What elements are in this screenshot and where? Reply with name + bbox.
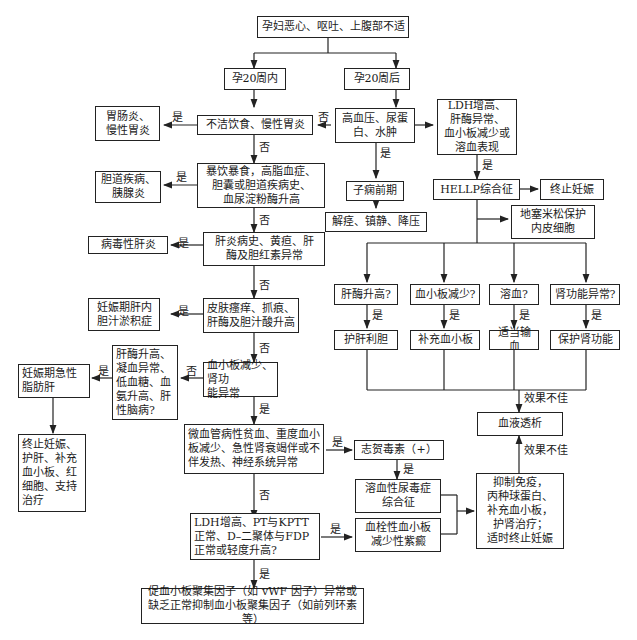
- edge-label-yes: 是: [482, 160, 493, 172]
- edge-label-yes: 是: [259, 404, 270, 416]
- node-mahat: 微血管病性贫血、重度血小 板减少、急性肾衰竭伴或不 伴发热、神经系统异常: [184, 424, 324, 474]
- node-hypertension-proteinuria-edema: 高血压、尿蛋 白、水肿: [335, 108, 415, 143]
- edge-label-yes: 是: [449, 310, 460, 322]
- node-start: 孕妇恶心、呕吐、上腹部不适: [257, 16, 409, 38]
- node-renal-protection: 保护肾功能: [550, 330, 620, 350]
- node-liver-enzyme-question: 肝酶升高?: [334, 284, 398, 305]
- node-ldh-pt-kptt: LDH增高、PT与KPTT 正常、D–二聚体与FDP 正常或轻度升高?: [190, 513, 320, 560]
- edge-label-poor-effect: 效果不佳: [524, 393, 568, 405]
- node-platelet-supplement: 补充血小板: [410, 330, 480, 350]
- node-dexamethasone: 地塞米松保护 内皮细胞: [511, 205, 595, 239]
- node-liver-protection: 护肝利胆: [334, 330, 398, 350]
- node-renal-question: 肾功能异常?: [550, 284, 620, 305]
- node-ldh-elevated: LDH增高、 肝酶异常、 血小板减少或 溶血表现: [437, 99, 517, 155]
- node-afl-criteria: 肝酶升高、 凝血异常、 低血糖、血 氨升高、肝 性脑病?: [112, 345, 178, 420]
- node-preeclampsia-treatment: 解痉、镇静、降压: [325, 212, 427, 232]
- edge-label-yes: 是: [380, 148, 391, 160]
- edge-label-no: 否: [259, 215, 270, 227]
- node-preeclampsia: 子痫前期: [346, 181, 404, 201]
- node-platelet-renal: 血小板减少、肾功 能异常: [203, 362, 278, 397]
- edge-label-yes: 是: [178, 306, 189, 318]
- edge-label-yes: 是: [332, 437, 343, 449]
- node-vwf-factor: 促血小板聚集因子（如 vWF 因子）异常或 缺乏正常抑制血小板聚集因子（如前列环…: [141, 588, 364, 624]
- node-viral-hepatitis: 病毒性肝炎: [88, 236, 168, 254]
- node-shiga-toxin: 志贺毒素（+）: [354, 440, 444, 460]
- node-hemolysis-question: 溶血?: [489, 284, 539, 305]
- node-after-20-weeks: 孕20周后: [344, 68, 410, 90]
- edge-label-yes: 是: [178, 238, 189, 250]
- node-hemodialysis: 血液透析: [477, 412, 563, 436]
- node-acute-fatty-liver: 妊娠期急性 脂肪肝: [18, 364, 90, 398]
- edge-label-poor-effect: 效果不佳: [524, 445, 568, 457]
- node-gastroenteritis: 胃肠炎、 慢性胃炎: [95, 106, 160, 141]
- edge-label-yes: 是: [519, 310, 530, 322]
- edge-label-yes: 是: [372, 310, 383, 322]
- node-unclean-food-chronic-gastritis: 不洁饮食、慢性胃炎: [197, 115, 313, 135]
- node-hepatitis-history: 肝炎病史、黄疸、肝 酶及胆红素异常: [203, 232, 325, 266]
- edge-label-yes: 是: [176, 172, 187, 184]
- node-ttp: 血栓性血小板 减少性紫癜: [355, 518, 441, 552]
- node-within-20-weeks: 孕20周内: [224, 68, 286, 90]
- node-biliary-disease: 胆道疾病、 胰腺炎: [95, 171, 161, 203]
- node-binge-eating-hyperlipidemia: 暴饮暴食，高脂血症、 胆囊或胆道疾病史、 血尿淀粉酶升高: [197, 163, 325, 208]
- edge-label-yes: 是: [98, 366, 109, 378]
- edge-label-no: 否: [259, 490, 270, 502]
- edge-label-no: 否: [259, 343, 270, 355]
- edge-label-yes: 是: [403, 464, 414, 476]
- node-hus: 溶血性尿毒症 综合征: [355, 479, 441, 513]
- node-transfusion: 适当输血: [489, 330, 539, 350]
- edge-label-yes: 是: [172, 112, 183, 124]
- node-hellp-syndrome: HELLP综合征: [433, 179, 520, 200]
- node-terminate-pregnancy: 终止妊娠: [540, 179, 604, 200]
- node-immune-suppression-treatment: 抑制免疫， 丙种球蛋白、 补充血小板， 护肾治疗； 适时终止妊娠: [476, 473, 564, 549]
- edge-label-no: 否: [259, 142, 270, 154]
- edge-label-yes: 是: [330, 524, 341, 536]
- node-afl-treatment: 终止妊娠、 护肝、补充 血小板、红 细胞、支持 治疗: [18, 434, 86, 512]
- node-platelet-question: 血小板减少?: [410, 284, 480, 305]
- edge-label-no: 否: [318, 112, 329, 124]
- edge-label-no: 否: [186, 366, 197, 378]
- edge-label-yes: 是: [591, 310, 602, 322]
- node-pruritus: 皮肤瘙痒、抓痕、 肝酶及胆汁酸升高: [203, 298, 299, 333]
- edge-label-no: 否: [259, 280, 270, 292]
- node-icp: 妊娠期肝内 胆汁淤积症: [88, 298, 160, 331]
- edge-label-yes: 是: [259, 569, 270, 581]
